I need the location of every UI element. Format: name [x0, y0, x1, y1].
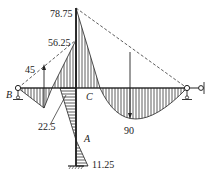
right-span-parabola — [100, 88, 187, 119]
point-label-C: C — [86, 91, 93, 102]
label-90: 90 — [124, 125, 134, 136]
left-span-moment-below — [18, 88, 52, 108]
label-11-25: 11.25 — [92, 159, 114, 170]
point-label-B: B — [6, 89, 12, 100]
label-22-5: 22.5 — [38, 121, 56, 132]
label-45: 45 — [25, 64, 35, 75]
fixed-support-A — [68, 166, 84, 169]
label-56-25: 56.25 — [48, 37, 71, 48]
label-78-75: 78.75 — [50, 8, 73, 19]
moment-diagram: 78.75 56.25 45 22.5 90 11.25 B C A — [0, 0, 209, 173]
roller-support-end — [199, 82, 204, 94]
right-span-moment-above — [76, 8, 100, 88]
point-label-A: A — [83, 133, 91, 144]
column-moment-upper — [60, 88, 76, 140]
